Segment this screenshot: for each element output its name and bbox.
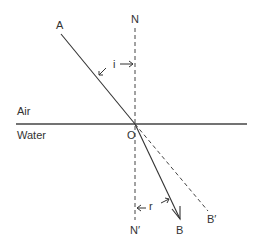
refracted-ray-OB bbox=[135, 124, 180, 219]
label-air: Air bbox=[17, 106, 30, 117]
undeviated-ray-OB-prime bbox=[135, 124, 208, 211]
incident-ray-AO bbox=[61, 34, 135, 124]
label-N: N bbox=[131, 14, 139, 25]
angle-i-arrow-left bbox=[99, 68, 106, 75]
label-O: O bbox=[127, 130, 136, 141]
label-N-prime: N′ bbox=[130, 225, 140, 236]
label-A: A bbox=[56, 20, 63, 31]
label-angle-r: r bbox=[149, 201, 153, 212]
ray-arrowhead-B bbox=[172, 206, 180, 219]
label-B-prime: B′ bbox=[207, 214, 216, 225]
label-water: Water bbox=[17, 130, 46, 141]
label-angle-i: i bbox=[113, 59, 115, 70]
refraction-diagram bbox=[0, 0, 262, 249]
label-B: B bbox=[176, 225, 183, 236]
